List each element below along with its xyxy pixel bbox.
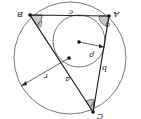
- vertex-b-dot: [28, 13, 32, 17]
- vertex-label-a: A: [113, 10, 120, 19]
- incenter-dot: [77, 40, 81, 44]
- angle-label-alpha: α: [105, 21, 110, 29]
- vertex-c-dot: [91, 110, 95, 114]
- side-label-c: c: [68, 8, 73, 17]
- vertex-label-c: C: [97, 112, 103, 119]
- circumcenter-dot: [67, 56, 71, 60]
- side-label-a: a: [65, 75, 70, 84]
- circumradius-label: r: [43, 72, 48, 81]
- vertex-a-dot: [107, 14, 111, 18]
- inradius-label: ρ: [89, 51, 95, 60]
- side-label-b: b: [102, 64, 107, 73]
- vertex-label-b: B: [17, 10, 24, 19]
- triangle: [30, 15, 109, 112]
- angle-label-beta: β: [38, 20, 43, 28]
- arrowhead-icon: [21, 81, 27, 86]
- triangle-diagram: B A C c b a β α γ r ρ: [0, 0, 141, 119]
